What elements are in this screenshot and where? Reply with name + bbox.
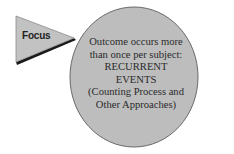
bubble-line-2: than once per subject: [78, 49, 194, 62]
bubble-line-3: RECURRENT [78, 61, 194, 74]
bubble-text: Outcome occurs more than once per subjec… [78, 36, 194, 112]
bubble-line-4: EVENTS [78, 74, 194, 87]
bubble-line-1: Outcome occurs more [78, 36, 194, 49]
focus-label: Focus [22, 30, 50, 41]
bubble-line-6: Other Approaches) [78, 99, 194, 112]
bubble-line-5: (Counting Process and [78, 86, 194, 99]
